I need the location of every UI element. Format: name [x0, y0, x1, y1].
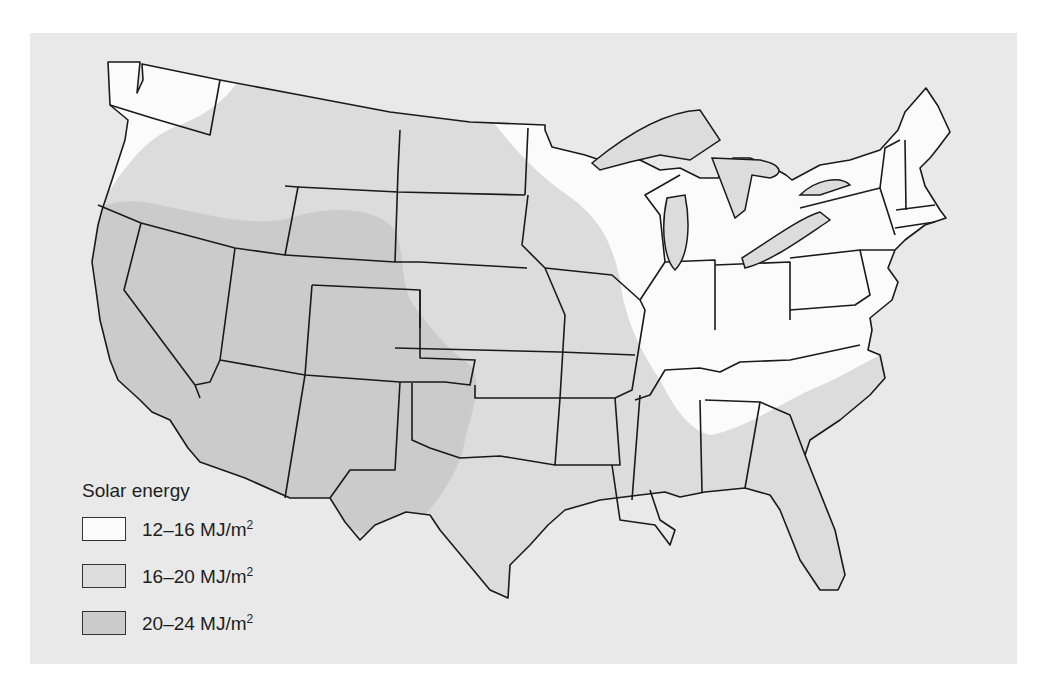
legend-item-mid: 16–20 MJ/m2	[82, 563, 253, 589]
map-legend: Solar energy 12–16 MJ/m2 16–20 MJ/m2 20–…	[82, 480, 253, 657]
legend-item-high: 20–24 MJ/m2	[82, 610, 253, 636]
legend-swatch-mid	[82, 564, 126, 588]
legend-title: Solar energy	[82, 480, 253, 502]
legend-swatch-high	[82, 611, 126, 635]
legend-label-high: 20–24 MJ/m2	[142, 612, 253, 635]
legend-label-mid: 16–20 MJ/m2	[142, 565, 253, 588]
legend-swatch-low	[82, 517, 126, 541]
legend-item-low: 12–16 MJ/m2	[82, 516, 253, 542]
legend-label-low: 12–16 MJ/m2	[142, 518, 253, 541]
